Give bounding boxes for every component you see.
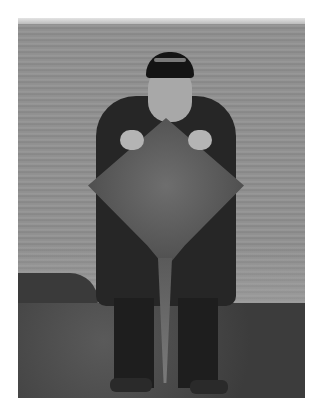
- cap-logo: [154, 58, 186, 62]
- left-shoe: [110, 378, 152, 392]
- man-right-leg: [178, 298, 218, 388]
- man-left-leg: [114, 298, 154, 388]
- left-hand: [120, 130, 144, 150]
- right-shoe: [190, 380, 228, 394]
- photo: [18, 18, 305, 398]
- right-hand: [188, 130, 212, 150]
